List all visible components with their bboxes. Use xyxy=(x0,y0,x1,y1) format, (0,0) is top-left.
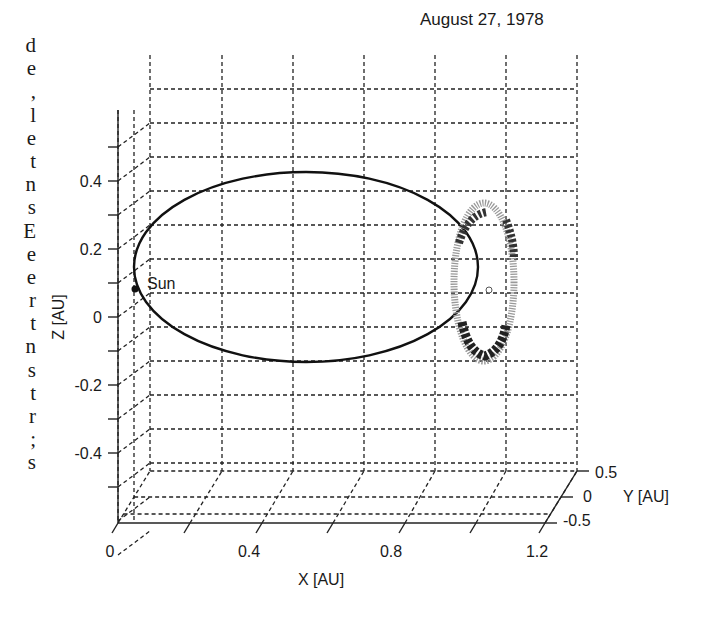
chart-title: August 27, 1978 xyxy=(420,10,544,29)
axes xyxy=(108,110,589,533)
sun-marker xyxy=(132,286,139,293)
grid-lines xyxy=(118,55,577,555)
z-tick-label: -0.2 xyxy=(74,377,102,394)
y-axis-label: Y [AU] xyxy=(623,488,669,505)
x-axis-label: X [AU] xyxy=(298,571,344,588)
x-tick-label: 0.8 xyxy=(380,543,402,560)
z-axis-label: Z [AU] xyxy=(50,294,67,339)
x-tick-labels: 0 0.4 0.8 1.2 xyxy=(106,543,549,560)
sun-label: Sun xyxy=(147,275,175,292)
z-tick-labels: 0.4 0.2 0 -0.2 -0.4 xyxy=(74,173,102,462)
x-tick-label: 1.2 xyxy=(526,543,548,560)
orbit-3d-plot: Sun August 27, 1978 0.4 0.2 0 -0.2 -0.4 … xyxy=(0,0,715,622)
z-tick-label: -0.4 xyxy=(74,445,102,462)
z-tick-label: 0.4 xyxy=(80,173,102,190)
y-tick-label: -0.5 xyxy=(563,512,591,529)
x-tick-label: 0.4 xyxy=(238,543,260,560)
y-tick-label: 0 xyxy=(583,488,592,505)
y-tick-label: 0.5 xyxy=(595,464,617,481)
earth-orbit xyxy=(134,172,478,362)
z-tick-label: 0.2 xyxy=(80,241,102,258)
z-tick-label: 0 xyxy=(93,309,102,326)
halo-orbit xyxy=(454,203,514,361)
x-tick-label: 0 xyxy=(106,543,115,560)
